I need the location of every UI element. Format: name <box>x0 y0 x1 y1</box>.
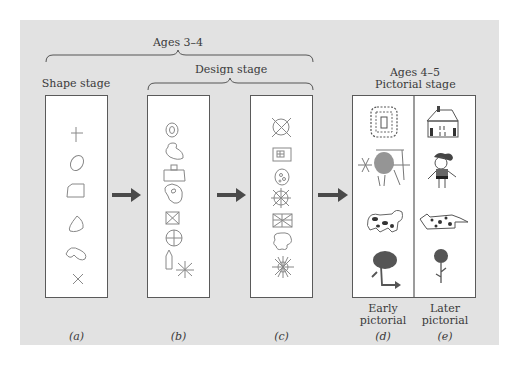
caption-c-text: (c) <box>274 330 289 343</box>
later-pictorial-label: Later pictorial <box>414 303 476 327</box>
caption-b-text: (b) <box>171 330 187 343</box>
design-stage-label: Design stage <box>195 64 267 76</box>
panel-b-design-stage <box>147 95 210 298</box>
caption-d-text: (d) <box>375 330 391 343</box>
caption-d: (d) <box>352 331 414 343</box>
panel-de-pictorial-stage <box>352 95 476 298</box>
later-label-line2: pictorial <box>414 315 476 327</box>
caption-e: (e) <box>414 331 476 343</box>
caption-e-text: (e) <box>437 330 452 343</box>
early-pictorial-label: Early pictorial <box>352 303 414 327</box>
caption-b: (b) <box>147 331 210 343</box>
shape-stage-label: Shape stage <box>40 78 112 90</box>
panel-a-shape-stage <box>45 95 108 298</box>
pictorial-stage-label: Pictorial stage <box>375 79 455 91</box>
ages-3-4-label: Ages 3–4 <box>150 37 206 49</box>
caption-a: (a) <box>45 331 108 343</box>
early-label-line2: pictorial <box>352 315 414 327</box>
caption-a-text: (a) <box>69 330 84 343</box>
panel-c-design-stage <box>250 95 313 298</box>
caption-c: (c) <box>250 331 313 343</box>
